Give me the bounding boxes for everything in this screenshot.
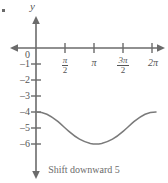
ytick-label-minus6: –6 — [8, 139, 30, 149]
cosine-curve — [36, 112, 156, 144]
xtick-label-2pi: 2π — [144, 58, 162, 68]
y-axis — [32, 16, 40, 179]
ytick-label-minus2: –2 — [8, 75, 30, 85]
figure-caption: Shift downward 5 — [0, 164, 168, 175]
ytick-label-minus4: –4 — [8, 107, 30, 117]
y-axis-label: y — [30, 1, 35, 12]
ytick-label-minus1: –1 — [8, 59, 30, 69]
graph-figure: y 0 –1 –2 –3 –4 –5 –6 π 2 π 3π 2 2π Shif… — [0, 0, 168, 183]
fraction-3pi-over-2: 3π 2 — [117, 56, 128, 76]
fraction-pi-over-2: π 2 — [62, 56, 69, 76]
xtick-label-3pi-over-2: 3π 2 — [113, 56, 133, 76]
xtick-label-pi: π — [87, 58, 101, 68]
x-axis — [10, 44, 165, 52]
ytick-label-minus3: –3 — [8, 91, 30, 101]
xtick-label-pi-over-2: π 2 — [57, 56, 73, 76]
ytick-label-minus5: –5 — [8, 123, 30, 133]
